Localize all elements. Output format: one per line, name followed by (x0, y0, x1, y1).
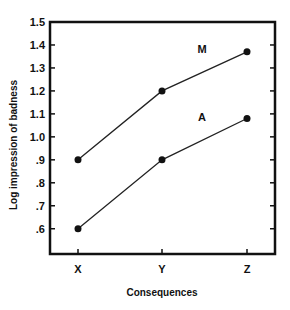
x-tick-label: Z (244, 263, 251, 275)
line-chart: .6.7.8.91.01.11.21.31.41.5 XYZ MA Conseq… (0, 0, 290, 310)
x-tick-label: X (74, 263, 82, 275)
y-tick-label: .6 (36, 223, 45, 235)
data-point-marker (244, 115, 251, 122)
data-point-marker (159, 87, 166, 94)
y-tick-label: .9 (36, 154, 45, 166)
x-axis-title: Consequences (126, 287, 198, 298)
data-point-marker (159, 156, 166, 163)
series-group: MA (75, 43, 251, 232)
data-point-marker (244, 48, 251, 55)
y-tick-label: 1.3 (30, 62, 45, 74)
series-line-A (78, 118, 247, 228)
plot-frame (50, 22, 275, 254)
y-tick-label: 1.2 (30, 85, 45, 97)
series-label-A: A (198, 111, 206, 123)
data-point-marker (75, 225, 82, 232)
y-tick-label: .7 (36, 200, 45, 212)
y-axis: .6.7.8.91.01.11.21.31.41.5 (30, 16, 275, 235)
y-axis-title: Log impression of badness (8, 80, 19, 210)
x-tick-label: Y (158, 263, 166, 275)
series-line-M (78, 52, 247, 160)
y-tick-label: 1.1 (30, 108, 45, 120)
plot-border (50, 22, 275, 254)
y-tick-label: 1.0 (30, 131, 45, 143)
series-label-M: M (197, 43, 206, 55)
data-point-marker (75, 156, 82, 163)
y-tick-label: .8 (36, 177, 45, 189)
y-tick-label: 1.5 (30, 16, 45, 28)
y-tick-label: 1.4 (30, 39, 46, 51)
